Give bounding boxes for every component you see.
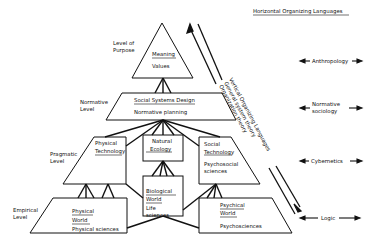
natural-ecology-title1: Natural xyxy=(152,138,172,144)
biological-world-sub1: Life xyxy=(146,205,156,211)
horizontal-arrows xyxy=(300,59,362,220)
biological-world-title1: Biological xyxy=(146,188,172,195)
psychical-world-title1: Psychical xyxy=(220,202,245,209)
social-technology-title1: Social xyxy=(204,141,220,147)
physical-world-title1: Physical xyxy=(72,208,94,215)
horizontal-logic: Logic xyxy=(321,215,335,222)
social-technology-sub1: Psychosocial xyxy=(204,161,238,168)
level-pragmatic-1: Pragmatic xyxy=(50,151,77,158)
level-empirical-1: Empirical xyxy=(13,207,38,214)
social-technology-sub2: sciences xyxy=(204,168,227,174)
physical-world-title2: World xyxy=(72,217,87,223)
meaning-title: Meaning xyxy=(152,51,175,58)
horizontal-cybernetics: Cybernetics xyxy=(311,158,343,165)
level-empirical-2: Level xyxy=(13,214,27,220)
horizontal-normative-1: Normative xyxy=(312,101,341,107)
horizontal-normative-2: sociology xyxy=(312,108,338,115)
social-technology-title2: Technology xyxy=(203,149,235,156)
physical-world-sub: Physical sciences xyxy=(72,226,119,233)
psychical-world-title2: World xyxy=(220,210,235,216)
physical-technology-title2: Technology xyxy=(94,148,126,155)
psychical-world-sub: Psychosciences xyxy=(220,223,262,230)
arrow-up-icon xyxy=(187,24,193,33)
arrow-down-icon xyxy=(294,204,301,212)
level-purpose-1: Level of xyxy=(113,40,134,46)
horizontal-anthropology: Anthropology xyxy=(312,58,349,65)
level-normative-2: Level xyxy=(80,106,94,112)
level-pragmatic-2: Level xyxy=(50,158,64,164)
hierarchy-diagram: Horizontal Organizing Languages Level of… xyxy=(0,0,370,245)
social-systems-sub: Normative planning xyxy=(134,109,187,116)
biological-world-title2: World xyxy=(146,196,161,202)
level-purpose-2: Purpose xyxy=(113,47,135,54)
meaning-sub: Values xyxy=(152,63,170,69)
level-normative-1: Normative xyxy=(80,99,109,105)
social-systems-title: Social Systems Design xyxy=(134,97,195,104)
physical-technology-title1: Physical xyxy=(95,140,117,147)
header-title: Horizontal Organizing Languages xyxy=(253,8,343,15)
natural-ecology-title2: Ecology xyxy=(150,146,172,153)
biological-world-sub2: sciences xyxy=(146,212,169,218)
